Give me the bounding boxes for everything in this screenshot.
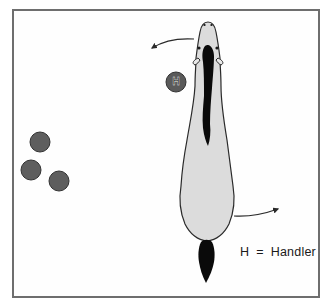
handler-symbol: H (166, 74, 186, 90)
eye-right (215, 46, 218, 49)
horse (180, 22, 234, 283)
person-marker-2 (21, 160, 41, 180)
person-marker-3 (49, 171, 69, 191)
hindquarters-arrow (234, 209, 278, 216)
nostril-right (210, 24, 212, 26)
head-turn-arrow (152, 39, 194, 48)
eye-left (197, 46, 200, 49)
legend-meaning: Handler (271, 245, 316, 259)
legend-symbol: H (240, 245, 249, 259)
legend-equals: = (256, 245, 264, 259)
legend: H=Handler (240, 245, 316, 259)
horse-tail (198, 240, 214, 283)
person-marker-1 (30, 132, 50, 152)
nostril-left (203, 24, 205, 26)
